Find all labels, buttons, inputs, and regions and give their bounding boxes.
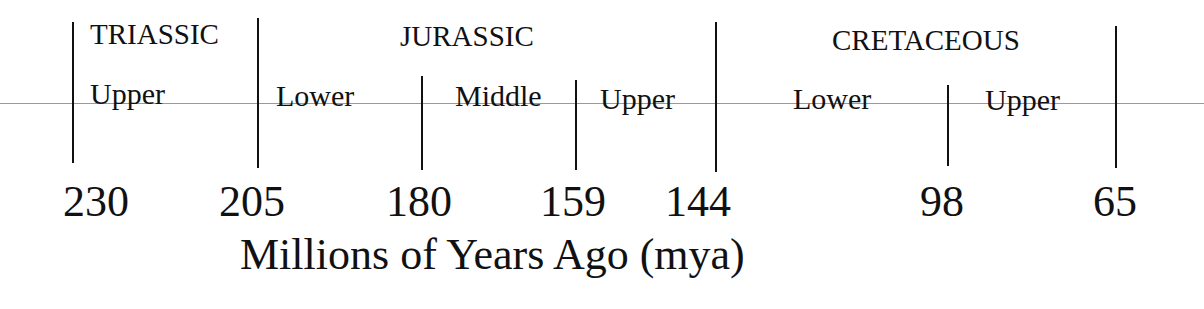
boundary-label: 98: [920, 180, 964, 224]
boundary-label: 159: [540, 180, 606, 224]
boundary-line-98: [947, 85, 949, 166]
boundary-label: 180: [386, 180, 452, 224]
boundary-label: 144: [665, 180, 731, 224]
boundary-line-205: [257, 18, 259, 168]
boundary-label: 65: [1093, 180, 1137, 224]
period-label-triassic: TRIASSIC: [90, 20, 219, 49]
boundary-label: 230: [63, 180, 129, 224]
axis-title: Millions of Years Ago (mya): [240, 233, 745, 277]
boundary-label: 205: [219, 180, 285, 224]
epoch-label: Lower: [276, 81, 354, 111]
boundary-line-65: [1115, 26, 1117, 168]
epoch-label: Upper: [90, 79, 165, 109]
boundary-line-144: [715, 22, 717, 172]
epoch-label: Lower: [793, 84, 871, 114]
period-label-jurassic: JURASSIC: [400, 22, 534, 51]
boundary-line-180: [421, 76, 423, 170]
epoch-label: Upper: [985, 85, 1060, 115]
epoch-label: Upper: [600, 84, 675, 114]
epoch-label: Middle: [455, 81, 542, 111]
boundary-line-230: [72, 22, 74, 163]
boundary-line-159: [575, 80, 577, 170]
period-label-cretaceous: CRETACEOUS: [832, 26, 1020, 55]
